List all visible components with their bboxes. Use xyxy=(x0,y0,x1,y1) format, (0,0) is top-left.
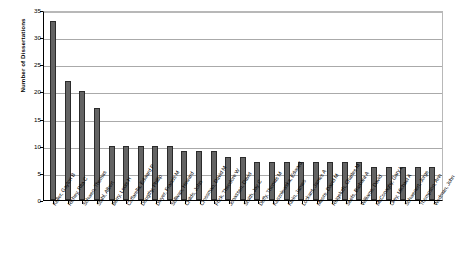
x-axis-tick-label-cell: McConaghy, Gary L xyxy=(372,204,378,276)
x-axis-tick-label-cell: Keller, Gayton B xyxy=(49,204,55,276)
x-axis-tick-label-cell: Reigeluth, Charles M xyxy=(328,204,334,276)
x-axis-tick-label-cell: Kaszniewska, Edward xyxy=(269,204,275,276)
x-axis-tick-label-cell: Thompson, Ann xyxy=(416,204,422,276)
x-axis-tick-label-cell: Crossman, David M xyxy=(196,204,202,276)
y-axis-tick-label: 30 xyxy=(5,35,41,41)
y-axis-tick-label: 10 xyxy=(5,144,41,150)
x-axis-tick-label-cell: Caffarella, Edward P xyxy=(123,204,129,276)
x-axis-tick-label-cell: Seels, Barbara A xyxy=(342,204,348,276)
x-axis-tick-label-cell: Duffy, Thomas M xyxy=(255,204,261,276)
x-axis-tick-label-cell: Berry, Louis H xyxy=(108,204,114,276)
y-axis-tick-label: 15 xyxy=(5,117,41,123)
x-axis-tick-label-cell: Sullivan, Howard xyxy=(167,204,173,276)
x-axis-tick-label-cell: Dwyer, Francis M xyxy=(152,204,158,276)
x-axis-tick-label-cell: Orey, Michael A xyxy=(386,204,392,276)
x-axis-tick-label-cell: Lockard, James A xyxy=(298,204,304,276)
x-axis-tick-label-cell: Stahl, Albert xyxy=(93,204,99,276)
x-axis-tick-label-cell: Richey, Rita C xyxy=(64,204,70,276)
x-axis-tick-label-cell: Klein, James xyxy=(284,204,290,276)
x-axis-tick-label-cell: Frick, Theodore W xyxy=(211,204,217,276)
y-axis-tick-labels: 05101520253035 xyxy=(0,11,41,201)
y-axis-tick-label: 35 xyxy=(5,8,41,14)
y-axis-tick-label: 5 xyxy=(5,171,41,177)
x-axis-tick-labels: Keller, Gayton BRichey, Rita CSchwen, Th… xyxy=(43,204,443,276)
x-axis-tick-label-cell: Dougthy, Phillip xyxy=(137,204,143,276)
x-axis-tick-label-cell: Wedman, John xyxy=(430,204,436,276)
x-axis-tick-label-cell: Williams, David xyxy=(357,204,363,276)
x-axis-tick-label-cell: Jonassen, David xyxy=(225,204,231,276)
x-axis-tick-label-cell: Childs, John xyxy=(181,204,187,276)
y-axis-tick-label: 25 xyxy=(5,62,41,68)
bar xyxy=(50,21,56,200)
x-axis-tick-label-cell: Schwen, Thomas xyxy=(79,204,85,276)
y-axis-tick-label: 20 xyxy=(5,89,41,95)
x-axis-tick-label-cell: Schwenert, Jorge xyxy=(401,204,407,276)
x-axis-tick-label-cell: Moore, David M xyxy=(313,204,319,276)
x-axis-tick-label-cell: Smith, Jay C xyxy=(240,204,246,276)
y-axis-tick-label: 0 xyxy=(5,198,41,204)
